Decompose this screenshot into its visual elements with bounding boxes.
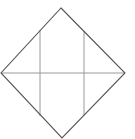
diamond-grid-diagram	[0, 0, 135, 139]
inner-lines	[1, 30, 125, 116]
